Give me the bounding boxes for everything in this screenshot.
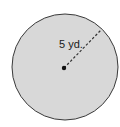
circle-diagram: 5 yd.	[0, 0, 120, 127]
radius-label: 5 yd.	[59, 38, 83, 50]
circle-figure	[0, 0, 120, 127]
center-point	[62, 66, 66, 70]
